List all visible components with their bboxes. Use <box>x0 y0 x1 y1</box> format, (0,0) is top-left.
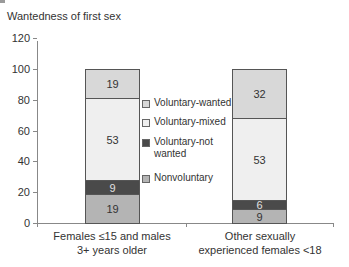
x-label-2: Other sexually experienced females <18 <box>185 229 335 257</box>
bar-segment-voluntary-mixed: 53 <box>85 98 140 181</box>
legend-label-line: Voluntary-not <box>154 136 213 148</box>
x-tick <box>37 223 38 227</box>
legend-label: Voluntary-not wanted <box>154 136 213 160</box>
y-tick-label: 60 <box>0 125 30 137</box>
y-tick <box>33 131 37 132</box>
x-label-line: Other sexually <box>185 229 335 243</box>
bar-segment-nonvoluntary: 9 <box>232 209 287 224</box>
y-tick <box>33 223 37 224</box>
bar-segment-nonvoluntary: 19 <box>85 194 140 224</box>
legend-label: Voluntary-mixed <box>154 116 226 128</box>
x-label-line: Females ≤15 and males <box>37 229 187 243</box>
chart-title: Wantedness of first sex <box>7 10 121 22</box>
y-tick <box>33 69 37 70</box>
legend-swatch <box>142 175 150 183</box>
y-tick-label: 0 <box>0 217 30 229</box>
y-axis <box>37 41 38 224</box>
bar-segment-voluntary-not-wanted: 9 <box>85 180 140 195</box>
legend-label: Nonvoluntary <box>154 172 213 184</box>
legend-label-line: wanted <box>154 148 213 160</box>
y-tick-label: 120 <box>0 32 30 44</box>
bar-segment-voluntary-mixed: 53 <box>232 118 287 201</box>
legend-swatch <box>142 139 150 147</box>
legend-item-voluntary-not-wanted: Voluntary-not wanted <box>142 136 213 160</box>
bar-segment-voluntary-wanted: 19 <box>85 69 140 99</box>
legend-item-voluntary-mixed: Voluntary-mixed <box>142 116 226 128</box>
x-tick <box>333 223 334 227</box>
y-tick-label: 40 <box>0 155 30 167</box>
x-label-1: Females ≤15 and males 3+ years older <box>37 229 187 257</box>
y-tick <box>33 192 37 193</box>
x-tick <box>186 223 187 227</box>
y-tick-label: 80 <box>0 94 30 106</box>
y-tick-label: 20 <box>0 186 30 198</box>
corner-mark <box>0 0 5 3</box>
legend-swatch <box>142 100 150 108</box>
y-tick <box>33 100 37 101</box>
legend-swatch <box>142 119 150 127</box>
legend-item-nonvoluntary: Nonvoluntary <box>142 172 213 184</box>
x-label-line: 3+ years older <box>37 243 187 257</box>
y-tick-label: 100 <box>0 63 30 75</box>
y-tick <box>33 161 37 162</box>
x-label-line: experienced females <18 <box>185 243 335 257</box>
legend-item-voluntary-wanted: Voluntary-wanted <box>142 97 231 109</box>
bar-segment-voluntary-wanted: 32 <box>232 69 287 119</box>
y-tick <box>33 38 37 39</box>
bar-segment-voluntary-not-wanted: 6 <box>232 200 287 210</box>
legend-label: Voluntary-wanted <box>154 97 231 109</box>
